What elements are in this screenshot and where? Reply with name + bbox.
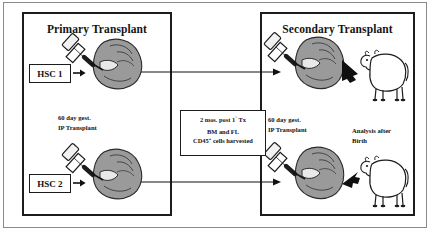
secondary-gestation-line2: IP Transplant [268, 125, 307, 135]
secondary-injection-illustration-1 [266, 32, 412, 104]
hsc-2-box: HSC 2 [29, 174, 71, 193]
harvest-info-line1-prefix: 2 mos. post 1 [200, 116, 235, 123]
analysis-line1: Analysis after [352, 126, 391, 136]
thick-arrow-right-icon [342, 172, 360, 188]
analysis-after-birth-caption: Analysis after Birth [352, 126, 391, 145]
harvest-info-line1-suffix: Tx [237, 116, 246, 123]
figure-root: Primary Transplant Secondary Transplant … [0, 0, 431, 232]
harvest-info-line-1: 2 mos. post 1° Tx [181, 115, 265, 125]
sheep-icon [361, 50, 408, 101]
secondary-gestation-line1: 60 day gest. [268, 115, 307, 125]
primary-injection-illustration-1 [60, 32, 158, 94]
secondary-gestation-caption: 60 day gest. IP Transplant [268, 115, 307, 134]
hsc-1-box: HSC 1 [29, 64, 71, 83]
arrow-right-icon [73, 178, 86, 188]
harvest-info-box: 2 mos. post 1° Tx BM and FL CD45+ cells … [180, 110, 266, 156]
primary-gestation-line2: IP Transplant [58, 123, 97, 133]
harvest-info-line3-suffix: cells harvested [211, 137, 253, 144]
hsc-2-label: HSC 2 [37, 179, 62, 189]
secondary-injection-illustration-2 [266, 142, 412, 214]
sheep-icon [361, 156, 408, 207]
primary-gestation-caption: 60 day gest. IP Transplant [58, 113, 97, 132]
hsc-1-label: HSC 1 [37, 69, 62, 79]
fetus-icon [93, 149, 141, 199]
arrow-right-icon [73, 68, 86, 78]
harvest-info-line3-prefix: CD45 [193, 137, 209, 144]
primary-injection-illustration-2 [60, 142, 158, 204]
fetus-icon [93, 39, 141, 89]
fetus-icon [295, 37, 343, 88]
primary-gestation-line1: 60 day gest. [58, 113, 97, 123]
harvest-info-line-2: BM and FL [181, 127, 265, 137]
thick-arrow-right-icon [342, 60, 358, 83]
harvest-info-line-3: CD45+ cells harvested [181, 136, 265, 146]
fetus-icon [295, 147, 343, 198]
analysis-line2: Birth [352, 136, 391, 146]
